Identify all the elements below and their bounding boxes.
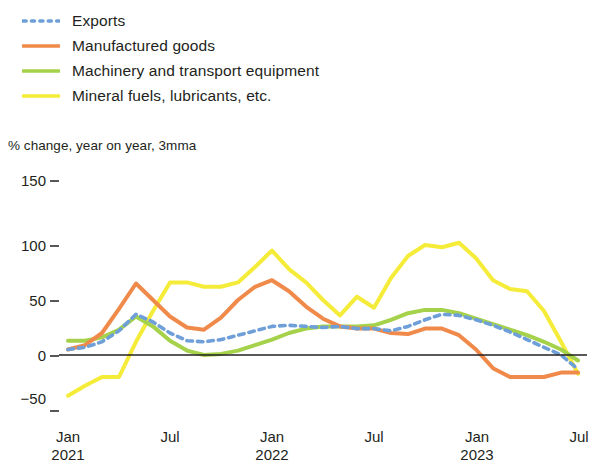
x-tick-jan-2022: Jan 2022 bbox=[242, 428, 302, 465]
legend-label-manufactured-goods: Manufactured goods bbox=[72, 38, 215, 54]
legend-swatch-mineral-fuels-icon bbox=[22, 89, 60, 103]
legend-item-machinery-transport: Machinery and transport equipment bbox=[22, 58, 319, 83]
y-tick-label-minus50: −50 bbox=[0, 391, 46, 406]
series-line-machinery-and-transport-equipment bbox=[68, 310, 578, 361]
y-tick-label-100: 100 bbox=[0, 238, 46, 253]
legend-swatch-manufactured-goods-icon bbox=[22, 39, 60, 53]
y-tick-label-150: 150 bbox=[0, 173, 46, 188]
y-tick-dash-0 bbox=[50, 355, 59, 357]
x-tick-jul-2023: Jul bbox=[549, 428, 593, 446]
legend-item-manufactured-goods: Manufactured goods bbox=[22, 33, 319, 58]
y-tick-dash-minus50 bbox=[50, 410, 59, 412]
legend-label-exports: Exports bbox=[72, 13, 125, 29]
axis-units-subtitle: % change, year on year, 3mma bbox=[8, 138, 196, 153]
y-tick-dash-100 bbox=[50, 245, 59, 247]
chart-legend: Exports Manufactured goods Machinery and… bbox=[22, 8, 319, 108]
legend-item-mineral-fuels: Mineral fuels, lubricants, etc. bbox=[22, 83, 319, 108]
legend-item-exports: Exports bbox=[22, 8, 319, 33]
x-tick-jan-2023: Jan 2023 bbox=[447, 428, 507, 465]
legend-label-machinery-transport: Machinery and transport equipment bbox=[72, 63, 319, 79]
x-tick-jan-2021: Jan 2021 bbox=[38, 428, 98, 465]
y-tick-dash-150 bbox=[50, 180, 59, 182]
y-tick-dash-50 bbox=[50, 300, 59, 302]
legend-label-mineral-fuels: Mineral fuels, lubricants, etc. bbox=[72, 88, 272, 104]
x-tick-jul-2022: Jul bbox=[344, 428, 404, 446]
series-line-manufactured-goods bbox=[68, 280, 578, 377]
x-tick-jul-2021: Jul bbox=[140, 428, 200, 446]
series-line-mineral-fuels-lubricants-etc bbox=[68, 243, 578, 396]
y-tick-label-0: 0 bbox=[0, 348, 46, 363]
legend-swatch-machinery-transport-icon bbox=[22, 64, 60, 78]
series-line-exports bbox=[68, 314, 578, 369]
y-tick-label-50: 50 bbox=[0, 293, 46, 308]
legend-swatch-exports-icon bbox=[22, 14, 60, 28]
